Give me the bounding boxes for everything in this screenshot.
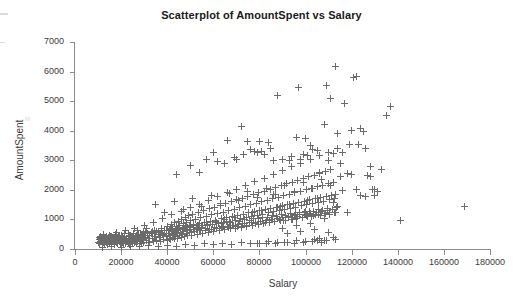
scatter-point	[285, 214, 292, 221]
scatter-point	[240, 211, 247, 218]
scatter-point	[242, 182, 249, 189]
scatter-point	[378, 166, 385, 173]
scatter-point	[291, 188, 298, 195]
scatter-point	[218, 220, 225, 227]
scatter-point	[297, 156, 304, 163]
scatter-point	[103, 239, 110, 246]
y-axis-label-wrapper: AmountSpent	[12, 105, 26, 195]
scatter-point	[266, 219, 273, 226]
scatter-point	[168, 228, 175, 235]
scatter-point	[204, 221, 211, 228]
scatter-point	[101, 240, 108, 247]
scatter-point	[131, 225, 138, 232]
scatter-point	[108, 233, 115, 240]
scatter-point	[145, 235, 152, 242]
scatter-point	[123, 236, 130, 243]
scatter-point	[133, 235, 140, 242]
scatter-point	[113, 239, 120, 246]
scatter-point	[176, 232, 183, 239]
scatter-point	[332, 236, 339, 243]
scatter-point	[178, 234, 185, 241]
scatter-point	[329, 206, 336, 213]
scatter-point	[134, 238, 141, 245]
scatter-point	[273, 213, 280, 220]
scatter-point	[240, 151, 247, 158]
scatter-point	[140, 229, 147, 236]
scatter-point	[142, 234, 149, 241]
scatter-point	[264, 214, 271, 221]
scatter-point	[329, 206, 336, 213]
scatter-point	[124, 238, 131, 245]
scatter-point	[119, 239, 126, 246]
scatter-point	[273, 204, 280, 211]
scatter-point	[318, 176, 325, 183]
scatter-point	[303, 212, 310, 219]
scatter-point	[219, 240, 226, 247]
scatter-point	[325, 149, 332, 156]
scatter-point	[182, 224, 189, 231]
scatter-point	[199, 222, 206, 229]
scatter-point	[129, 233, 136, 240]
scatter-point	[310, 212, 317, 219]
scatter-point	[161, 227, 168, 234]
scatter-point	[285, 213, 292, 220]
scatter-point	[249, 222, 256, 229]
scatter-point	[211, 224, 218, 231]
scatter-point	[322, 210, 329, 217]
scatter-point	[302, 135, 309, 142]
scatter-point	[117, 240, 124, 247]
scatter-point	[334, 145, 341, 152]
scatter-point	[316, 170, 323, 177]
scatter-point	[176, 222, 183, 229]
scatter-point	[112, 231, 119, 238]
scatter-point	[168, 211, 175, 218]
scatter-point	[216, 227, 223, 234]
scatter-point	[141, 222, 148, 229]
scatter-point	[311, 236, 318, 243]
scatter-point	[139, 233, 146, 240]
scatter-point	[397, 217, 404, 224]
scatter-point	[307, 142, 314, 149]
scatter-point	[291, 212, 298, 219]
scatter-point	[159, 231, 166, 238]
scatter-point	[218, 215, 225, 222]
scatter-point	[203, 213, 210, 220]
scatter-point	[270, 171, 277, 178]
scatter-point	[174, 229, 181, 236]
scatter-point	[297, 160, 304, 167]
scatter-point	[125, 230, 132, 237]
scatter-point	[205, 229, 212, 236]
scatter-point	[180, 220, 187, 227]
scatter-point	[247, 240, 254, 247]
scatter-point	[130, 233, 137, 240]
scatter-point	[286, 157, 293, 164]
scatter-point	[206, 226, 213, 233]
scatter-point	[107, 238, 114, 245]
scatter-point	[95, 239, 102, 246]
scatter-point	[165, 230, 172, 237]
scatter-point	[186, 223, 193, 230]
scatter-point	[129, 240, 136, 247]
scatter-point	[160, 236, 167, 243]
scatter-point	[208, 226, 215, 233]
scatter-point	[158, 227, 165, 234]
scatter-point	[315, 206, 322, 213]
scatter-point	[212, 217, 219, 224]
x-tick	[213, 250, 214, 255]
scatter-point	[229, 213, 236, 220]
scatter-point	[272, 240, 279, 247]
scatter-point	[198, 224, 205, 231]
scatter-point	[148, 229, 155, 236]
scatter-point	[201, 219, 208, 226]
scatter-point	[293, 134, 300, 141]
scatter-point	[265, 238, 272, 245]
scatter-point	[228, 241, 235, 248]
scatter-point	[277, 203, 284, 210]
scatter-point	[323, 82, 330, 89]
scatter-point	[287, 210, 294, 217]
scatter-point	[150, 238, 157, 245]
scatter-point	[189, 211, 196, 218]
scatter-point	[260, 220, 267, 227]
scatter-point	[348, 171, 355, 178]
scatter-point	[106, 232, 113, 239]
